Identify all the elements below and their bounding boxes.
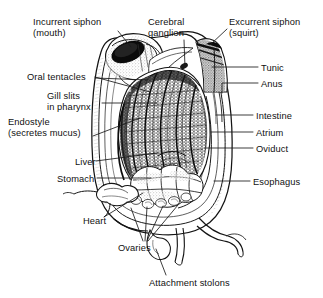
figure-canvas: Incurrent siphon(mouth)CerebralganglionE… [0, 0, 323, 298]
label-endostyle-line2: (secretes mucus) [8, 128, 81, 138]
label-liver: Liver [75, 157, 96, 168]
label-heart: Heart [83, 216, 106, 227]
label-oral-tentacles: Oral tentacles [27, 72, 86, 83]
label-heart-line1: Heart [83, 216, 106, 226]
label-atrium-line1: Atrium [256, 128, 283, 138]
label-attachment-stolons-line1: Attachment stolons [149, 278, 230, 288]
label-intestine: Intestine [256, 111, 292, 122]
label-ovaries-line1: Ovaries [118, 243, 151, 253]
label-ovaries: Ovaries [118, 243, 151, 254]
label-oviduct-line1: Oviduct [256, 144, 288, 154]
label-cerebral-ganglion-line2: ganglion [148, 28, 184, 38]
label-stomach: Stomach [57, 174, 94, 185]
label-gill-slits-line2: in pharynx [47, 102, 91, 112]
label-stomach-line1: Stomach [57, 174, 94, 184]
label-esophagus: Esophagus [253, 177, 300, 188]
label-liver-line1: Liver [75, 157, 96, 167]
label-endostyle: Endostyle(secretes mucus) [8, 117, 81, 138]
label-oviduct: Oviduct [256, 144, 288, 155]
label-cerebral-ganglion-line1: Cerebral [148, 17, 184, 27]
label-anus: Anus [261, 79, 283, 90]
label-incurrent-siphon-line2: (mouth) [33, 28, 66, 38]
label-incurrent-siphon: Incurrent siphon(mouth) [33, 17, 101, 38]
label-excurrent-siphon-line1: Excurrent siphon [229, 17, 300, 27]
label-tunic-line1: Tunic [261, 63, 284, 73]
label-endostyle-line1: Endostyle [8, 117, 50, 127]
label-incurrent-siphon-line1: Incurrent siphon [33, 17, 101, 27]
label-gill-slits-line1: Gill slits [47, 91, 80, 101]
label-atrium: Atrium [256, 128, 283, 139]
label-excurrent-siphon-line2: (squirt) [229, 28, 259, 38]
label-anus-line1: Anus [261, 79, 283, 89]
label-esophagus-line1: Esophagus [253, 177, 300, 187]
label-gill-slits: Gill slitsin pharynx [47, 91, 91, 112]
excurrent-siphon-leader [210, 29, 227, 45]
label-excurrent-siphon: Excurrent siphon(squirt) [229, 17, 300, 38]
label-cerebral-ganglion: Cerebralganglion [148, 17, 184, 38]
label-attachment-stolons: Attachment stolons [149, 278, 230, 289]
label-intestine-line1: Intestine [256, 111, 292, 121]
label-tunic: Tunic [261, 63, 284, 74]
label-oral-tentacles-line1: Oral tentacles [27, 72, 86, 82]
